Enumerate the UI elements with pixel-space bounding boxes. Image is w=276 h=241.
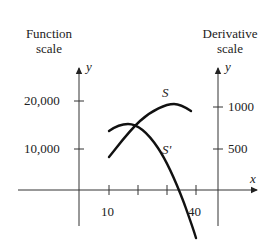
right-tick-label-500: 500 [228,142,248,156]
x-axis-label: x [250,172,256,186]
x-tick-label-10: 10 [101,205,114,219]
series-S-label: S [162,86,169,100]
plot-area [0,0,276,241]
series-S-prime-label: S' [162,143,171,157]
x-tick-label-40: 40 [188,205,201,219]
series-S-curve [109,104,191,157]
left-y-axis-label: y [86,60,92,74]
left-tick-label-10000: 10,000 [24,142,60,156]
right-y-axis-label: y [225,60,231,74]
right-tick-label-1000: 1000 [228,100,254,114]
left-tick-label-20000: 20,000 [24,94,60,108]
